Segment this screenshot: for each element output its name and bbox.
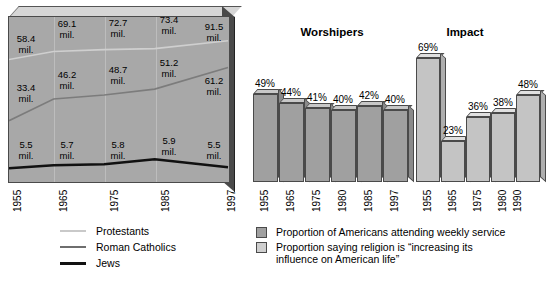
bar-impact-1975 — [466, 117, 490, 182]
value-label-protestants-1997: 91.5mil. — [197, 22, 231, 43]
legend-label-weekly-service: Proportion of Americans attending weekly… — [276, 226, 505, 238]
area-chart-legend: Protestants Roman Catholics Jews — [60, 223, 240, 271]
value-label-protestants-1955: 58.4mil. — [9, 34, 43, 55]
bar-charts-legend: Proportion of Americans attending weekly… — [256, 226, 512, 268]
worshipers-bar-chart: 49% 44% 41% 40% 42% — [252, 60, 412, 182]
worshipers-axis-year-1975: 1975 — [311, 190, 322, 212]
legend-line-roman-catholics — [60, 246, 86, 248]
legend-label-roman-catholics: Roman Catholics — [96, 241, 176, 253]
bar-impact-1980 — [491, 113, 515, 182]
impact-axis-year-1980: 1980 — [497, 190, 508, 212]
bar-label-impact-1965: 23% — [439, 125, 467, 136]
area-axis-year-1985: 1985 — [160, 190, 171, 212]
legend-swatch-religion-influence — [256, 242, 267, 253]
area-axis-year-1997: 1997 — [226, 190, 237, 212]
bar-worshipers-1985 — [357, 106, 382, 182]
worshipers-axis-year-1985: 1985 — [363, 190, 374, 212]
legend-swatch-weekly-service — [256, 227, 267, 238]
value-label-protestants-1985: 73.4mil. — [152, 15, 186, 36]
impact-axis-year-1990: 1990 — [512, 190, 523, 212]
bar-front-face — [383, 110, 408, 182]
value-label-protestants-1975: 72.7mil. — [101, 18, 135, 39]
impact-chart-title: Impact — [415, 26, 515, 38]
bar-label-worshipers-1985: 42% — [355, 90, 383, 101]
impact-bar-chart: 69% 23% 36% 38% 48% — [415, 40, 519, 182]
bar-front-face — [466, 117, 490, 182]
value-label-catholics-1955: 33.4mil. — [9, 83, 43, 104]
bar-worshipers-1965 — [279, 103, 304, 182]
legend-item-religion-influence: Proportion saying religion is “increasin… — [256, 241, 512, 265]
bar-front-face — [305, 108, 330, 182]
area-axis-year-1965: 1965 — [58, 190, 69, 212]
legend-item-jews: Jews — [60, 255, 240, 271]
bar-front-face — [357, 106, 382, 182]
bar-worshipers-1980 — [331, 110, 356, 182]
bar-label-worshipers-1965: 44% — [277, 87, 305, 98]
worshipers-axis-year-1997: 1997 — [389, 190, 400, 212]
legend-label-protestants: Protestants — [96, 225, 149, 237]
bar-impact-1990 — [516, 95, 540, 182]
value-label-catholics-1997: 61.2mil. — [197, 76, 231, 97]
value-label-jews-1997: 5.5mil. — [197, 140, 231, 161]
bar-side-face — [540, 90, 546, 182]
bar-front-face — [491, 113, 515, 182]
legend-line-protestants — [60, 230, 86, 232]
bar-label-impact-1975: 36% — [464, 101, 492, 112]
bar-label-worshipers-1975: 41% — [303, 92, 331, 103]
bar-label-worshipers-1980: 40% — [329, 94, 357, 105]
bar-front-face — [516, 95, 540, 182]
value-label-catholics-1985: 51.2mil. — [152, 58, 186, 79]
bar-label-impact-1980: 38% — [489, 97, 517, 108]
bar-label-impact-1990: 48% — [514, 79, 542, 90]
legend-label-jews: Jews — [96, 257, 120, 269]
legend-label-religion-influence-line1: Proportion saying religion is “increasin… — [276, 241, 473, 253]
value-label-jews-1965: 5.7mil. — [50, 140, 84, 161]
bar-worshipers-1997 — [383, 110, 408, 182]
value-label-jews-1955: 5.5mil. — [9, 140, 43, 161]
bar-label-worshipers-1955: 49% — [251, 78, 279, 89]
bar-impact-1955 — [416, 58, 440, 182]
membership-area-chart: 58.4mil. 69.1mil. 72.7mil. 73.4mil. 91.5… — [0, 0, 248, 220]
bar-front-face — [416, 58, 440, 182]
area-axis-year-1975: 1975 — [109, 190, 120, 212]
bar-front-face — [441, 141, 465, 182]
bar-front-face — [331, 110, 356, 182]
legend-item-roman-catholics: Roman Catholics — [60, 239, 240, 255]
bar-side-face — [408, 105, 414, 182]
worshipers-axis-year-1955: 1955 — [259, 190, 270, 212]
bar-label-worshipers-1997: 40% — [381, 94, 409, 105]
legend-label-religion-influence: Proportion saying religion is “increasin… — [276, 241, 473, 265]
legend-item-weekly-service: Proportion of Americans attending weekly… — [256, 226, 512, 238]
value-label-protestants-1965: 69.1mil. — [50, 19, 84, 40]
impact-axis-year-1965: 1965 — [447, 190, 458, 212]
bar-worshipers-1955 — [253, 94, 278, 182]
worshipers-axis-year-1965: 1965 — [285, 190, 296, 212]
worshipers-axis-year-1980: 1980 — [337, 190, 348, 212]
value-label-jews-1975: 5.8mil. — [101, 140, 135, 161]
bar-label-impact-1955: 69% — [414, 42, 442, 53]
legend-item-protestants: Protestants — [60, 223, 240, 239]
bar-front-face — [279, 103, 304, 182]
impact-axis-year-1955: 1955 — [422, 190, 433, 212]
bar-worshipers-1975 — [305, 108, 330, 182]
legend-line-jews — [60, 262, 86, 265]
area-axis-year-1955: 1955 — [12, 190, 23, 212]
value-label-catholics-1975: 48.7mil. — [101, 65, 135, 86]
worshipers-chart-title: Worshipers — [272, 26, 392, 38]
bar-front-face — [253, 94, 278, 182]
impact-axis-year-1975: 1975 — [472, 190, 483, 212]
value-label-jews-1985: 5.9mil. — [152, 136, 186, 157]
legend-label-religion-influence-line2: influence on American life” — [276, 253, 399, 265]
value-label-catholics-1965: 46.2mil. — [50, 70, 84, 91]
bar-impact-1965 — [441, 141, 465, 182]
